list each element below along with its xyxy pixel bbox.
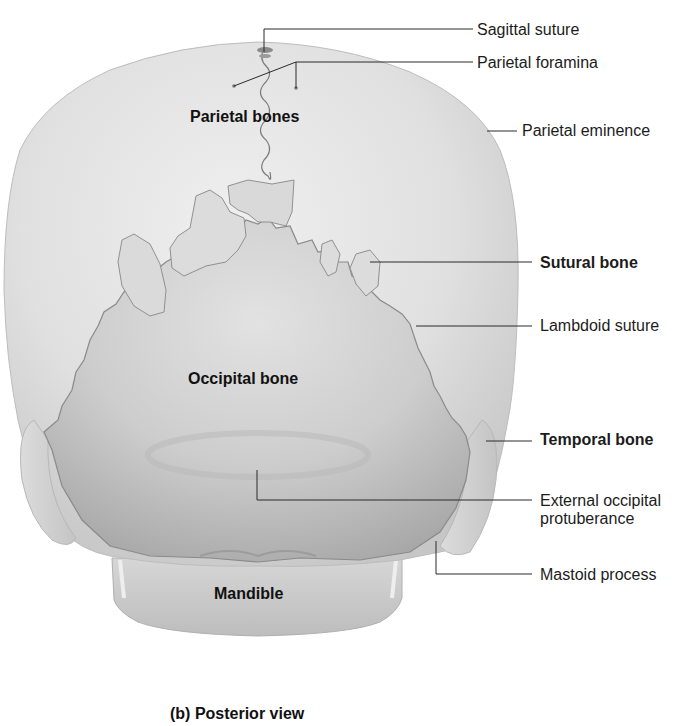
callout-mastoid-process: Mastoid process <box>540 566 657 584</box>
label-parietal-bones: Parietal bones <box>190 108 299 126</box>
skull-posterior-illustration <box>0 0 699 726</box>
callout-parietal-foramina: Parietal foramina <box>477 54 598 72</box>
callout-temporal-bone: Temporal bone <box>540 431 654 449</box>
callout-sutural-bone: Sutural bone <box>540 254 638 272</box>
callout-lambdoid-suture: Lambdoid suture <box>540 317 659 335</box>
figure-caption: (b) Posterior view <box>170 705 304 723</box>
callout-external-occipital-line1: External occipital <box>540 492 661 510</box>
callout-external-occipital-line2: protuberance <box>540 510 661 528</box>
label-occipital-bone: Occipital bone <box>188 370 298 388</box>
callout-sagittal-suture: Sagittal suture <box>477 21 579 39</box>
callout-parietal-eminence: Parietal eminence <box>522 122 650 140</box>
callout-external-occipital-protuberance: External occipital protuberance <box>540 492 661 528</box>
label-mandible: Mandible <box>214 585 283 603</box>
